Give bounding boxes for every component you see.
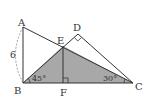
length-label-ab: 6 <box>10 50 16 60</box>
point-label-c: C <box>135 81 143 92</box>
point-label-f: F <box>60 87 67 98</box>
point-label-d: D <box>73 22 81 33</box>
right-angle-mark-d <box>74 37 81 41</box>
geometry-diagram: A B C D E F 45° 30° 6 <box>0 0 148 101</box>
point-label-e: E <box>57 35 64 46</box>
point-label-a: A <box>17 17 26 28</box>
angle-label-c: 30° <box>103 74 117 83</box>
length-arc-ab <box>16 27 24 83</box>
point-label-b: B <box>14 85 21 96</box>
angle-label-b: 45° <box>32 74 46 83</box>
